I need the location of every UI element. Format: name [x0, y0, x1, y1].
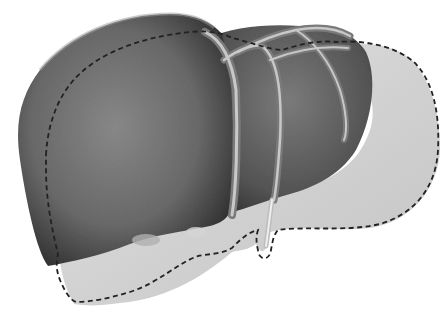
inferior-bulge	[186, 227, 206, 237]
gallbladder-bulge	[132, 234, 160, 246]
liver-illustration	[0, 0, 442, 311]
liver-svg	[0, 0, 442, 311]
